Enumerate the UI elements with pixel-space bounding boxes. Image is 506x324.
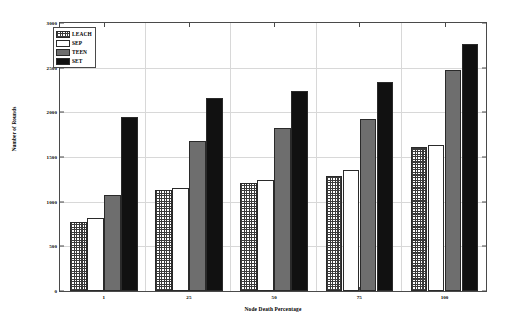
legend-item-sep[interactable]: SEP (56, 39, 92, 47)
legend-swatch-teen-icon (56, 49, 70, 56)
y-tick-label: 1000 (47, 199, 57, 204)
legend-label: TEEN (72, 49, 87, 56)
bar-teen-25 (189, 141, 206, 291)
y-tick-mark-right (482, 67, 486, 68)
bar-leach-75 (326, 176, 343, 291)
x-tick-mark-top (445, 23, 446, 27)
gridline-vertical (401, 23, 402, 291)
legend-label: LEACH (72, 31, 92, 38)
x-tick-label: 50 (272, 295, 277, 300)
x-tick-label: 75 (357, 295, 362, 300)
x-tick-label: 25 (186, 295, 191, 300)
bar-set-25 (206, 98, 223, 291)
legend-item-set[interactable]: SET (56, 57, 92, 65)
bar-sep-1 (87, 218, 104, 291)
bar-set-100 (462, 44, 479, 291)
bar-leach-25 (155, 190, 172, 291)
bar-leach-1 (70, 222, 87, 291)
y-tick-mark-right (482, 112, 486, 113)
y-tick-mark-right (482, 201, 486, 202)
legend-swatch-sep-icon (56, 40, 70, 47)
y-tick-mark (60, 23, 64, 24)
gridline-horizontal (60, 112, 486, 113)
y-tick-mark-right (482, 246, 486, 247)
bar-leach-100 (411, 147, 428, 291)
x-tick-mark-top (104, 23, 105, 27)
bar-sep-25 (172, 188, 189, 291)
bar-teen-100 (445, 70, 462, 291)
gridline-vertical (145, 23, 146, 291)
legend-label: SET (72, 58, 83, 65)
x-tick-label: 1 (102, 295, 105, 300)
y-tick-label: 0 (54, 289, 57, 294)
bar-set-75 (377, 82, 394, 291)
y-tick-mark (60, 112, 64, 113)
bar-teen-50 (274, 128, 291, 291)
chart-legend: LEACHSEPTEENSET (53, 27, 96, 68)
legend-label: SEP (72, 40, 82, 47)
bar-sep-75 (343, 170, 360, 291)
plot-area: 0500100015002000250030001255075100 (59, 22, 487, 292)
y-tick-mark (60, 201, 64, 202)
gridline-vertical (230, 23, 231, 291)
legend-swatch-leach-icon (56, 31, 70, 38)
y-tick-mark (60, 157, 64, 158)
y-tick-mark (60, 291, 64, 292)
bar-sep-50 (257, 180, 274, 291)
y-tick-label: 1500 (47, 155, 57, 160)
y-tick-mark-right (482, 157, 486, 158)
bar-chart: Number of Rounds 05001000150020002500300… (0, 0, 506, 324)
x-tick-label: 100 (441, 295, 449, 300)
legend-item-teen[interactable]: TEEN (56, 48, 92, 56)
y-tick-mark (60, 246, 64, 247)
bar-sep-100 (428, 145, 445, 291)
y-tick-label: 3000 (47, 21, 57, 26)
y-axis-title: Number of Rounds (11, 69, 17, 189)
y-tick-mark-right (482, 291, 486, 292)
gridline-horizontal (60, 68, 486, 69)
bar-teen-1 (104, 195, 121, 291)
bar-set-50 (291, 91, 308, 291)
bar-leach-50 (240, 183, 257, 291)
x-tick-mark-top (189, 23, 190, 27)
x-tick-mark-top (274, 23, 275, 27)
legend-item-leach[interactable]: LEACH (56, 30, 92, 38)
x-tick-mark-top (359, 23, 360, 27)
y-tick-label: 500 (49, 244, 57, 249)
bar-set-1 (121, 117, 138, 291)
y-tick-mark-right (482, 23, 486, 24)
legend-swatch-set-icon (56, 58, 70, 65)
x-axis-title: Node Death Percentage (59, 306, 487, 312)
y-tick-label: 2000 (47, 110, 57, 115)
bar-teen-75 (360, 119, 377, 291)
gridline-vertical (316, 23, 317, 291)
